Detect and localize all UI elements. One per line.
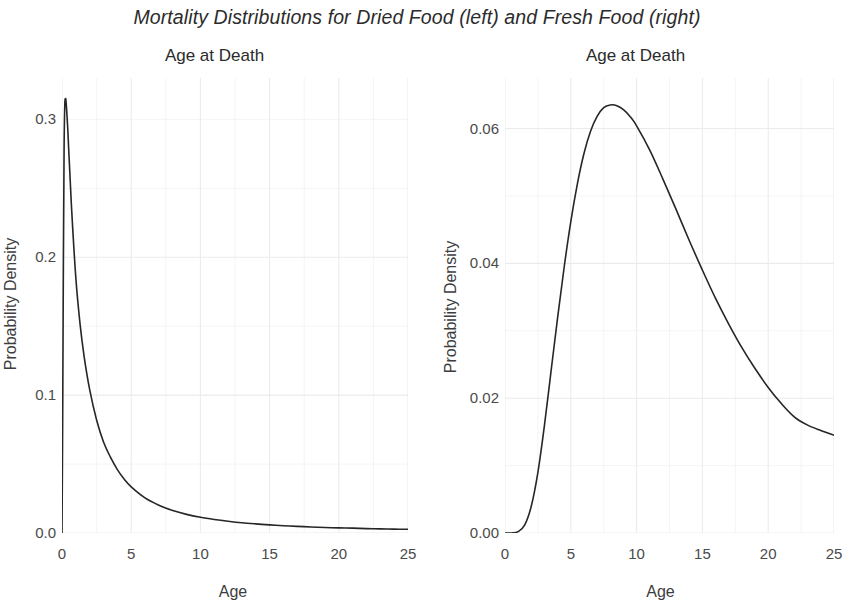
panel-fresh-food: Age at Death Probability Density Age 0.0… [417,40,834,605]
panel-title-left: Age at Death [0,46,423,66]
plot-area-right [505,78,834,533]
gridlines [505,78,834,533]
y-tick-label: 0.04 [447,254,499,271]
x-tick-label: 5 [551,545,591,562]
plot-area-left [62,78,408,533]
panel-title-right: Age at Death [417,46,844,66]
x-tick-label: 15 [250,545,290,562]
y-tick-label: 0.3 [4,110,56,127]
y-axis-title-right: Probability Density [442,227,460,387]
chart-svg [505,78,834,533]
figure-suptitle: Mortality Distributions for Dried Food (… [0,6,834,29]
x-tick-label: 15 [682,545,722,562]
x-tick-label: 5 [111,545,151,562]
y-tick-label: 0.02 [447,389,499,406]
y-tick-label: 0.0 [4,524,56,541]
x-tick-label: 0 [485,545,525,562]
x-tick-label: 20 [748,545,788,562]
x-axis-title-right: Age [487,583,834,601]
panel-dried-food: Age at Death Probability Density Age 0.0… [0,40,417,605]
y-tick-label: 0.1 [4,386,56,403]
x-axis-title-left: Age [60,583,406,601]
x-tick-label: 10 [180,545,220,562]
x-tick-label: 25 [814,545,847,562]
y-tick-label: 0.06 [447,120,499,137]
x-tick-label: 10 [617,545,657,562]
y-tick-label: 0.00 [447,524,499,541]
x-tick-label: 0 [42,545,82,562]
y-tick-label: 0.2 [4,248,56,265]
x-tick-label: 20 [319,545,359,562]
chart-svg [62,78,408,533]
